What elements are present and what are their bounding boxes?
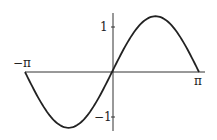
x-min-label: −π <box>13 57 31 69</box>
y-neg-label: −1 <box>94 111 112 123</box>
y-pos-label: 1 <box>100 21 108 33</box>
x-max-label: π <box>194 75 202 87</box>
